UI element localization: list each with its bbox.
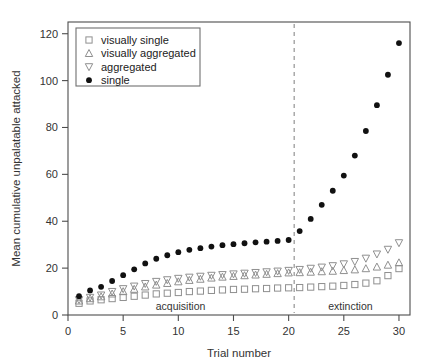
x-tick-label-20: 20	[283, 325, 295, 337]
point-visually-single-6	[131, 293, 137, 299]
point-single-26	[352, 153, 358, 159]
point-aggregated-27	[362, 255, 369, 262]
point-visually-single-26	[352, 281, 358, 287]
y-tick-label-60: 60	[46, 168, 58, 180]
point-single-5	[120, 272, 126, 278]
x-tick-label-30: 30	[393, 325, 405, 337]
point-visually-aggregated-26	[351, 266, 358, 273]
point-single-24	[330, 188, 336, 194]
point-single-20	[286, 237, 292, 243]
point-visually-single-11	[186, 288, 192, 294]
point-aggregated-30	[395, 240, 402, 247]
point-visually-single-22	[308, 284, 314, 290]
point-visually-single-20	[286, 285, 292, 291]
point-visually-single-14	[219, 287, 225, 293]
point-aggregated-26	[351, 258, 358, 265]
point-single-4	[109, 278, 115, 284]
legend-label-3: single	[101, 74, 130, 86]
point-visually-aggregated-6	[130, 285, 137, 292]
point-single-10	[175, 249, 181, 255]
point-single-9	[164, 252, 170, 258]
point-visually-aggregated-27	[362, 265, 369, 272]
point-visually-single-16	[241, 286, 247, 292]
y-tick-label-80: 80	[46, 121, 58, 133]
x-tick-label-10: 10	[172, 325, 184, 337]
x-tick-label-15: 15	[227, 325, 239, 337]
point-visually-single-21	[297, 284, 303, 290]
point-single-3	[98, 284, 104, 290]
point-visually-aggregated-28	[373, 263, 380, 270]
x-tick-label-0: 0	[65, 325, 71, 337]
point-single-19	[275, 238, 281, 244]
point-single-6	[131, 266, 137, 272]
point-visually-aggregated-29	[384, 261, 391, 268]
point-single-18	[264, 239, 270, 245]
y-tick-label-0: 0	[52, 309, 58, 321]
point-single-25	[341, 173, 347, 179]
point-visually-single-25	[341, 282, 347, 288]
point-aggregated-21	[296, 266, 303, 273]
point-visually-single-7	[142, 292, 148, 298]
legend-label-0: visually single	[101, 34, 169, 46]
y-tick-label-20: 20	[46, 262, 58, 274]
point-aggregated-24	[329, 263, 336, 270]
point-single-28	[374, 102, 380, 108]
point-aggregated-29	[384, 246, 391, 253]
point-visually-single-15	[230, 286, 236, 292]
point-aggregated-11	[186, 274, 193, 281]
y-axis-title: Mean cumulative unpalatable attacked	[10, 70, 22, 266]
point-single-21	[297, 228, 303, 234]
point-single-30	[396, 40, 402, 46]
chart-figure: 020406080100120051015202530Trial numberM…	[0, 0, 423, 364]
point-single-29	[385, 72, 391, 78]
point-visually-single-30	[396, 265, 402, 271]
point-aggregated-28	[373, 251, 380, 258]
point-single-11	[186, 247, 192, 253]
point-single-2	[87, 287, 93, 293]
point-visually-single-5	[120, 294, 126, 300]
point-single-17	[253, 239, 259, 245]
point-single-22	[308, 216, 314, 222]
x-tick-label-5: 5	[120, 325, 126, 337]
point-single-8	[153, 256, 159, 262]
legend-label-1: visually aggregated	[101, 47, 196, 59]
y-tick-label-40: 40	[46, 215, 58, 227]
legend-marker-3	[86, 77, 92, 83]
y-tick-label-100: 100	[40, 75, 58, 87]
point-visually-single-8	[153, 291, 159, 297]
point-visually-single-13	[208, 287, 214, 293]
x-tick-label-25: 25	[338, 325, 350, 337]
point-visually-aggregated-24	[329, 267, 336, 274]
phase-label-extinction: extinction	[328, 300, 373, 312]
point-visually-single-27	[363, 280, 369, 286]
phase-label-acquisition: acquisition	[156, 300, 206, 312]
point-single-12	[197, 245, 203, 251]
point-single-16	[242, 240, 248, 246]
point-visually-single-23	[319, 284, 325, 290]
point-visually-aggregated-11	[186, 276, 193, 283]
point-visually-single-9	[164, 290, 170, 296]
point-visually-single-24	[330, 283, 336, 289]
point-visually-single-12	[197, 288, 203, 294]
point-visually-single-17	[252, 286, 258, 292]
point-aggregated-6	[130, 283, 137, 290]
point-visually-single-29	[385, 273, 391, 279]
legend-label-2: aggregated	[101, 61, 157, 73]
point-visually-aggregated-30	[395, 259, 402, 266]
y-tick-label-120: 120	[40, 28, 58, 40]
point-aggregated-25	[340, 261, 347, 268]
point-single-7	[142, 261, 148, 267]
point-single-13	[209, 244, 215, 250]
point-visually-aggregated-21	[296, 269, 303, 276]
point-visually-single-28	[374, 278, 380, 284]
x-axis-title: Trial number	[207, 347, 271, 359]
point-single-15	[231, 241, 237, 247]
point-single-27	[363, 128, 369, 134]
point-single-1	[76, 293, 82, 299]
point-single-23	[319, 202, 325, 208]
scatter-plot: 020406080100120051015202530Trial numberM…	[0, 0, 423, 364]
point-visually-single-10	[175, 289, 181, 295]
point-single-14	[220, 242, 226, 248]
point-visually-single-19	[275, 285, 281, 291]
point-visually-single-18	[263, 285, 269, 291]
